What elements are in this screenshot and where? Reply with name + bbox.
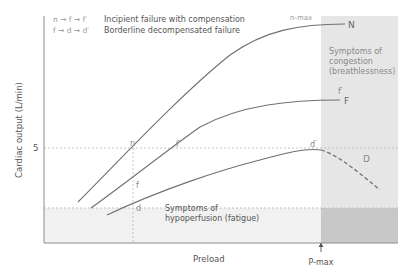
point-f-prime: f′ bbox=[176, 140, 181, 149]
cardiac-output-diagram: n → f → f′ Incipient failure with compen… bbox=[0, 0, 409, 276]
curve-F bbox=[91, 100, 340, 208]
overlap-region bbox=[321, 208, 398, 243]
label-D: D bbox=[363, 154, 370, 164]
y-axis-label: Cardiac output (L/min) bbox=[14, 82, 24, 178]
point-d: d bbox=[136, 204, 141, 213]
point-f-prime-right: f′ bbox=[338, 87, 343, 96]
pmax-label: P-max bbox=[309, 258, 334, 267]
point-d-prime: d′ bbox=[310, 140, 317, 149]
curve-N bbox=[78, 24, 345, 202]
hypoperfusion-text-2: hypoperfusion (fatigue) bbox=[165, 214, 259, 223]
pmax-arrow-icon bbox=[319, 243, 324, 247]
label-F: F bbox=[344, 96, 349, 106]
legend: n → f → f′ Incipient failure with compen… bbox=[53, 15, 245, 35]
y-tick-5: 5 bbox=[33, 143, 38, 153]
legend-key-2: f → d → d′ bbox=[53, 26, 89, 35]
label-N: N bbox=[348, 20, 355, 30]
congestion-text-1: Symptoms of bbox=[329, 47, 382, 56]
point-n: n bbox=[130, 139, 135, 148]
legend-text-2: Borderline decompensated failure bbox=[104, 26, 240, 35]
congestion-text-2: congestion bbox=[329, 57, 373, 66]
hypoperfusion-text-1: Symptoms of bbox=[165, 204, 218, 213]
congestion-text-3: (breathlessness) bbox=[329, 67, 395, 76]
legend-text-1: Incipient failure with compensation bbox=[104, 15, 245, 24]
point-f: f bbox=[136, 181, 139, 190]
legend-key-1: n → f → f′ bbox=[53, 15, 87, 24]
x-axis-label: Preload bbox=[193, 254, 225, 264]
congestion-region bbox=[321, 16, 398, 208]
label-n-max: n-max bbox=[290, 14, 312, 22]
